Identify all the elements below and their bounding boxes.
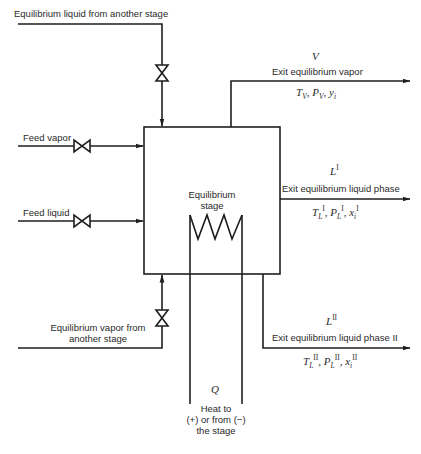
valve-icon bbox=[74, 140, 90, 152]
label-feed-liquid: Feed liquid bbox=[23, 208, 69, 219]
symbol-V: V bbox=[312, 50, 319, 62]
label-heat: Heat to (+) or from (−) the stage bbox=[166, 404, 266, 437]
label-vapor-from-stage: Equilibrium vapor from another stage bbox=[38, 323, 158, 345]
valve-icon bbox=[156, 65, 168, 81]
stage-label-line2: stage bbox=[174, 201, 250, 212]
symbol-L-II: LII bbox=[326, 314, 337, 327]
props-liquid-I: TLI, PLI, xiI bbox=[312, 205, 359, 221]
heating-coil bbox=[190, 215, 242, 404]
label-exit-liquid-II: Exit equilibrium liquid phase II bbox=[272, 333, 398, 344]
label-exit-liquid-I: Exit equilibrium liquid phase bbox=[282, 184, 400, 195]
props-liquid-II: TLII, PLII, xiII bbox=[303, 354, 357, 370]
valve-icon bbox=[74, 215, 90, 227]
label-liquid-from-stage: Equilibrium liquid from another stage bbox=[14, 9, 168, 20]
label-feed-vapor: Feed vapor bbox=[23, 133, 71, 144]
label-vapor-from-stage-line2: another stage bbox=[38, 334, 158, 345]
label-heat-line3: the stage bbox=[166, 426, 266, 437]
symbol-L-I: LI bbox=[330, 164, 339, 177]
stage-label: Equilibrium stage bbox=[174, 190, 250, 212]
label-exit-vapor: Exit equilibrium vapor bbox=[272, 67, 363, 78]
symbol-Q: Q bbox=[211, 383, 219, 395]
props-vapor: TV, PV, yi bbox=[296, 86, 336, 101]
inlet-liquid-from-stage bbox=[18, 24, 168, 126]
